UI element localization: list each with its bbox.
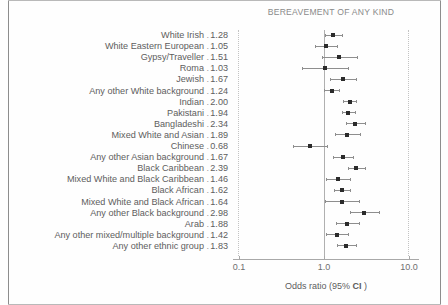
point-estimate-marker [345, 222, 349, 226]
ci-cap-upper [357, 56, 358, 59]
ci-cap-upper [356, 100, 357, 103]
ci-cap-upper [356, 78, 357, 81]
x-axis-title-text: Odds ratio (95% CI ) [285, 281, 367, 291]
point-estimate-marker [340, 188, 344, 192]
ci-cap-upper [359, 200, 360, 203]
ci-cap-lower [350, 211, 351, 214]
ci-cap-lower [336, 222, 337, 225]
x-axis-tick-label: 1.0 [304, 262, 344, 272]
ci-cap-upper [359, 222, 360, 225]
ci-cap-lower [342, 111, 343, 114]
x-axis-tick [409, 256, 410, 260]
ci-cap-lower [325, 34, 326, 37]
ci-cap-lower [335, 133, 336, 136]
point-estimate-marker [331, 33, 335, 37]
ci-cap-lower [333, 156, 334, 159]
ci-cap-upper [327, 145, 328, 148]
ci-cap-upper [337, 45, 338, 48]
ci-cap-lower [346, 122, 347, 125]
ci-cap-lower [302, 67, 303, 70]
point-estimate-marker [346, 111, 350, 115]
reference-line-or-1 [324, 30, 325, 256]
ci-cap-lower [337, 244, 338, 247]
ci-cap-lower [343, 100, 344, 103]
point-estimate-marker [348, 100, 352, 104]
ci-cap-upper [356, 244, 357, 247]
ci-cap-upper [348, 233, 349, 236]
ci-cap-lower [322, 56, 323, 59]
ci-cap-lower [334, 189, 335, 192]
ci-cap-upper [365, 122, 366, 125]
axis-boundary-right-dotted [408, 30, 409, 256]
x-axis-tick-label: 10.0 [389, 262, 429, 272]
ci-cap-upper [339, 89, 340, 92]
point-estimate-marker [341, 77, 345, 81]
point-estimate-marker [336, 177, 340, 181]
x-axis-title: Odds ratio (95% CI ) [246, 281, 406, 291]
point-estimate-marker [340, 200, 344, 204]
point-estimate-marker [308, 144, 312, 148]
ci-cap-upper [350, 189, 351, 192]
point-estimate-marker [323, 66, 327, 70]
ci-cap-upper [353, 156, 354, 159]
point-estimate-marker [335, 233, 339, 237]
ci-cap-lower [348, 167, 349, 170]
point-estimate-marker [330, 89, 334, 93]
point-estimate-marker [354, 166, 358, 170]
point-estimate-marker [344, 244, 348, 248]
ci-cap-lower [315, 45, 316, 48]
ci-cap-lower [326, 233, 327, 236]
ci-cap-lower [326, 178, 327, 181]
ci-cap-upper [355, 111, 356, 114]
x-axis-tick [324, 256, 325, 260]
x-axis-line [233, 259, 419, 260]
ci-cap-upper [360, 133, 361, 136]
ci-cap-upper [348, 67, 349, 70]
point-estimate-marker [324, 44, 328, 48]
ci-cap-lower [324, 89, 325, 92]
ci-cap-lower [330, 78, 331, 81]
point-estimate-marker [362, 211, 366, 215]
ci-cap-upper [342, 34, 343, 37]
point-estimate-marker [341, 155, 345, 159]
ci-cap-upper [379, 211, 380, 214]
axis-boundary-left-dotted [238, 30, 239, 256]
point-estimate-marker [345, 133, 349, 137]
ci-cap-lower [293, 145, 294, 148]
point-estimate-marker [337, 55, 341, 59]
x-axis-tick [239, 256, 240, 260]
ci-cap-upper [350, 178, 351, 181]
forest-plot-figure: BEREAVEMENT OF ANY KIND White Irish.1.28… [0, 0, 448, 305]
x-axis-tick-label: 0.1 [219, 262, 259, 272]
point-estimate-marker [353, 122, 357, 126]
ci-cap-upper [365, 167, 366, 170]
ci-cap-lower [325, 200, 326, 203]
